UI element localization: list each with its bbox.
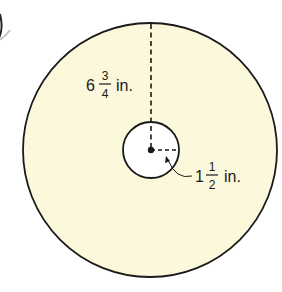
svg-text:3: 3 bbox=[102, 69, 109, 83]
svg-text:2: 2 bbox=[209, 178, 216, 192]
svg-text:in.: in. bbox=[116, 77, 133, 94]
svg-text:1: 1 bbox=[209, 160, 216, 174]
annulus-diagram: 6 3 4 in. 1 1 2 in. bbox=[0, 0, 282, 292]
svg-text:4: 4 bbox=[102, 87, 109, 101]
svg-text:in.: in. bbox=[224, 168, 241, 185]
center-point bbox=[148, 147, 154, 153]
svg-text:1: 1 bbox=[195, 168, 204, 185]
problem-number-fragment bbox=[0, 14, 2, 40]
svg-text:6: 6 bbox=[86, 77, 95, 94]
